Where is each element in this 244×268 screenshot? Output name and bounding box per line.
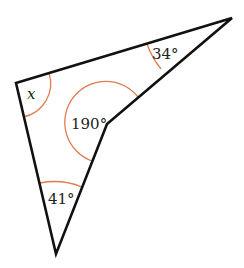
angle-arc-41 xyxy=(40,182,82,187)
quadrilateral-outline xyxy=(16,18,232,254)
angle-label-41: 41° xyxy=(48,190,75,208)
angle-label-34: 34° xyxy=(152,45,179,63)
angle-label-190: 190° xyxy=(71,115,107,133)
geometry-diagram: x 34° 190° 41° xyxy=(0,0,244,268)
angle-label-x: x xyxy=(27,85,36,103)
